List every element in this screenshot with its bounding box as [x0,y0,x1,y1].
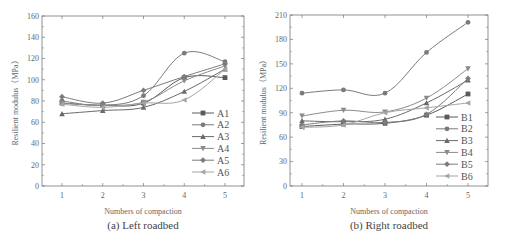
series-b5 [299,76,471,128]
x-tick-label: 5 [466,191,470,200]
legend-item-a4: A4 [192,143,229,154]
legend-item-b3: B3 [436,135,473,146]
legend-item-a3: A3 [192,131,229,142]
figure: 020406080100120140160Resilient modulus（M… [0,0,505,241]
x-tick-label: 4 [182,191,186,200]
chart-caption: (b) Right roadbed [350,219,429,232]
legend-label: B4 [461,147,473,158]
legend-item-a6: A6 [192,167,229,178]
y-tick-label: 60 [31,118,39,127]
y-tick-label: 0 [35,182,39,191]
y-tick-label: 40 [31,139,39,148]
x-tick-label: 3 [142,191,146,200]
y-axis-label: Resilient modulus（MPa） [259,56,268,145]
y-tick-label: 210 [275,11,287,20]
legend-label: B1 [461,112,473,123]
x-axis-label: Numbers of compaction [104,207,181,216]
x-tick-label: 3 [383,191,387,200]
legend-label: A3 [217,131,229,142]
y-tick-label: 0 [283,182,287,191]
legend-item-b6: B6 [436,171,473,182]
y-tick-label: 60 [279,133,287,142]
y-axis-label: Resilient modulus（MPa） [11,56,20,145]
legend-item-a1: A1 [192,108,229,119]
x-tick-label: 1 [300,191,304,200]
legend: B1B2B3B4B5B6 [436,112,473,182]
series-b2 [300,20,471,96]
y-tick-label: 180 [275,35,287,44]
legend-label: A1 [217,108,229,119]
legend-item-a5: A5 [192,155,229,166]
chart-caption: (a) Left roadbed [107,219,179,232]
series-a2 [60,51,228,108]
x-axis: 12345 [300,15,470,200]
legend-item-b2: B2 [436,123,473,134]
y-tick-label: 160 [27,12,39,21]
legend-item-a2: A2 [192,119,229,130]
y-tick-label: 20 [31,161,39,170]
chart-right-roadbed: 0306090120150180210Resilient modulus（MPa… [259,11,488,232]
legend-item-b1: B1 [436,112,473,123]
plot-frame [290,15,488,186]
legend-item-b5: B5 [436,159,473,170]
y-tick-label: 120 [27,54,39,63]
x-tick-label: 2 [342,191,346,200]
legend-label: A2 [217,119,229,130]
series-a5 [59,61,228,106]
legend-label: A6 [217,167,229,178]
y-tick-label: 30 [279,157,287,166]
y-tick-label: 140 [27,33,39,42]
y-tick-label: 100 [27,76,39,85]
y-tick-label: 120 [275,84,287,93]
legend-item-b4: B4 [436,147,473,158]
legend-label: B6 [461,171,473,182]
legend-label: A4 [217,143,229,154]
x-axis-label: Numbers of compaction [350,207,427,216]
legend: A1A2A3A4A5A6 [192,108,229,178]
y-tick-label: 80 [31,97,39,106]
legend-label: B2 [461,123,473,134]
chart-left-roadbed: 020406080100120140160Resilient modulus（M… [11,12,244,232]
legend-label: B3 [461,135,473,146]
x-tick-label: 1 [60,191,64,200]
legend-label: B5 [461,159,473,170]
x-tick-label: 2 [101,191,105,200]
x-tick-label: 4 [425,191,429,200]
y-tick-label: 150 [275,60,287,69]
x-tick-label: 5 [223,191,227,200]
y-tick-label: 90 [279,109,287,118]
legend-label: A5 [217,155,229,166]
